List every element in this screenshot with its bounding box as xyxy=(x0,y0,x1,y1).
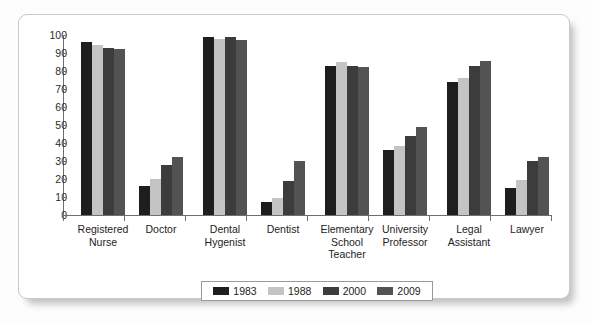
x-axis-category-label-line: Nurse xyxy=(65,236,141,249)
bar-group xyxy=(383,35,427,215)
x-axis-category-label-line: Assistant xyxy=(431,236,507,249)
x-axis-category-label-line: Teacher xyxy=(309,248,385,261)
bar-group xyxy=(325,35,369,215)
x-axis-tick-mark xyxy=(185,216,186,221)
bar-2000[interactable] xyxy=(103,48,114,215)
bar-1988[interactable] xyxy=(150,179,161,215)
legend-swatch-icon xyxy=(268,287,284,295)
bar-cluster xyxy=(505,35,549,215)
bar-cluster xyxy=(383,35,427,215)
bar-2000[interactable] xyxy=(469,66,480,215)
bar-cluster xyxy=(203,35,247,215)
chart-page: 1009080706050403020100 1983198820002009 … xyxy=(0,0,593,322)
bar-cluster xyxy=(447,35,491,215)
bar-1988[interactable] xyxy=(214,39,225,215)
bar-group xyxy=(203,35,247,215)
bar-1988[interactable] xyxy=(92,45,103,215)
legend-item[interactable]: 2000 xyxy=(323,286,366,296)
bar-2009[interactable] xyxy=(538,157,549,215)
legend-item[interactable]: 2009 xyxy=(377,286,420,296)
legend-label: 1988 xyxy=(288,286,311,296)
legend-label: 2000 xyxy=(343,286,366,296)
bar-1983[interactable] xyxy=(139,186,150,215)
bar-1983[interactable] xyxy=(447,82,458,215)
bar-group xyxy=(447,35,491,215)
x-axis-tick-mark xyxy=(246,216,247,221)
legend-label: 2009 xyxy=(397,286,420,296)
bar-group xyxy=(505,35,549,215)
x-axis-category-label-line: Lawyer xyxy=(489,223,565,236)
x-axis-category-label: Lawyer xyxy=(489,223,565,236)
bar-group xyxy=(261,35,305,215)
bar-cluster xyxy=(325,35,369,215)
x-axis-tick-mark xyxy=(368,216,369,221)
x-axis-category-label-line: Hygenist xyxy=(187,236,263,249)
x-axis-tick-mark xyxy=(551,216,552,221)
bar-group xyxy=(81,35,125,215)
legend-swatch-icon xyxy=(377,287,393,295)
legend-item[interactable]: 1988 xyxy=(268,286,311,296)
bar-1988[interactable] xyxy=(336,62,347,215)
legend-item[interactable]: 1983 xyxy=(213,286,256,296)
bar-2009[interactable] xyxy=(294,161,305,215)
bar-2000[interactable] xyxy=(527,161,538,215)
x-axis-tick-mark xyxy=(490,216,491,221)
bar-1988[interactable] xyxy=(458,78,469,215)
bar-2000[interactable] xyxy=(225,37,236,215)
x-axis-tick-mark xyxy=(63,216,64,221)
bar-cluster xyxy=(139,35,183,215)
bar-2009[interactable] xyxy=(358,67,369,215)
bar-2000[interactable] xyxy=(347,66,358,215)
bar-2009[interactable] xyxy=(236,40,247,215)
bar-2009[interactable] xyxy=(416,127,427,215)
bar-2000[interactable] xyxy=(405,136,416,215)
plot-area xyxy=(63,35,551,215)
chart-frame: 1009080706050403020100 1983198820002009 … xyxy=(18,14,570,299)
legend-swatch-icon xyxy=(323,287,339,295)
bar-cluster xyxy=(261,35,305,215)
bar-group xyxy=(139,35,183,215)
bar-cluster xyxy=(81,35,125,215)
x-axis-tick-mark xyxy=(307,216,308,221)
y-axis-ticks: 1009080706050403020100 xyxy=(33,35,67,216)
bar-2009[interactable] xyxy=(480,61,491,215)
bar-1983[interactable] xyxy=(203,37,214,215)
chart-legend: 1983198820002009 xyxy=(201,281,433,301)
bar-1988[interactable] xyxy=(394,146,405,215)
bar-1983[interactable] xyxy=(325,66,336,215)
bar-1983[interactable] xyxy=(261,202,272,215)
bar-2000[interactable] xyxy=(283,181,294,215)
bar-1983[interactable] xyxy=(505,188,516,215)
bar-2009[interactable] xyxy=(114,49,125,216)
legend-label: 1983 xyxy=(233,286,256,296)
x-axis-tick-mark xyxy=(429,216,430,221)
bar-2009[interactable] xyxy=(172,157,183,215)
bar-1983[interactable] xyxy=(81,42,92,215)
x-axis-ticks xyxy=(63,216,552,222)
bar-1983[interactable] xyxy=(383,150,394,215)
bar-2000[interactable] xyxy=(161,165,172,215)
bar-1988[interactable] xyxy=(516,180,527,215)
bar-1988[interactable] xyxy=(272,198,283,215)
legend-swatch-icon xyxy=(213,287,229,295)
x-axis-tick-mark xyxy=(124,216,125,221)
